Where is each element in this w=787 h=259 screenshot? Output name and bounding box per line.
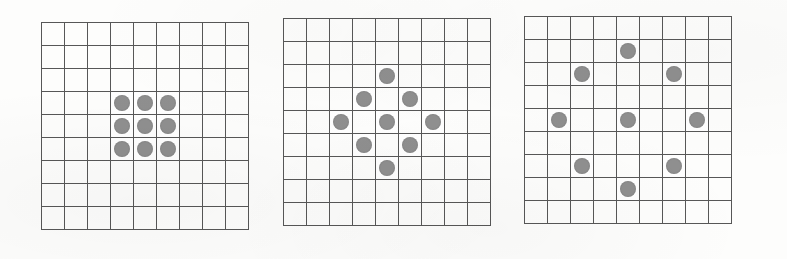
lattice-cell-empty[interactable] (525, 17, 548, 40)
lattice-cell-empty[interactable] (709, 178, 732, 201)
lattice-cell-empty[interactable] (157, 184, 180, 207)
lattice-cell-empty[interactable] (640, 132, 663, 155)
lattice-cell-empty[interactable] (180, 184, 203, 207)
lattice-cell-empty[interactable] (353, 180, 376, 203)
lattice-cell-empty[interactable] (330, 134, 353, 157)
lattice-cell-empty[interactable] (571, 109, 594, 132)
lattice-cell-empty[interactable] (180, 161, 203, 184)
lattice-cell-empty[interactable] (709, 109, 732, 132)
lattice-cell-empty[interactable] (709, 132, 732, 155)
lattice-cell-empty[interactable] (468, 180, 491, 203)
lattice-cell-empty[interactable] (422, 65, 445, 88)
lattice-cell-empty[interactable] (422, 42, 445, 65)
lattice-cell-empty[interactable] (640, 178, 663, 201)
lattice-cell-empty[interactable] (594, 109, 617, 132)
lattice-cell-empty[interactable] (663, 86, 686, 109)
lattice-cell-empty[interactable] (180, 92, 203, 115)
lattice-cell-empty[interactable] (42, 207, 65, 230)
lattice-cell-empty[interactable] (594, 86, 617, 109)
lattice-cell-empty[interactable] (686, 178, 709, 201)
lattice-cell-empty[interactable] (686, 132, 709, 155)
lattice-cell-empty[interactable] (640, 155, 663, 178)
lattice-cell-empty[interactable] (663, 178, 686, 201)
lattice-cell-empty[interactable] (548, 17, 571, 40)
lattice-cell-empty[interactable] (88, 92, 111, 115)
lattice-cell-empty[interactable] (468, 42, 491, 65)
lattice-cell-empty[interactable] (422, 19, 445, 42)
lattice-cell-empty[interactable] (571, 40, 594, 63)
lattice-cell-empty[interactable] (399, 111, 422, 134)
lattice-cell-empty[interactable] (203, 46, 226, 69)
lattice-cell-empty[interactable] (617, 201, 640, 224)
lattice-cell-empty[interactable] (353, 42, 376, 65)
lattice-cell-empty[interactable] (284, 42, 307, 65)
lattice-cell-empty[interactable] (226, 184, 249, 207)
lattice-cell-marked[interactable] (157, 92, 180, 115)
lattice-cell-empty[interactable] (525, 178, 548, 201)
lattice-cell-empty[interactable] (640, 17, 663, 40)
lattice-cell-empty[interactable] (42, 92, 65, 115)
lattice-cell-empty[interactable] (617, 63, 640, 86)
lattice-cell-empty[interactable] (226, 46, 249, 69)
lattice-cell-empty[interactable] (42, 69, 65, 92)
lattice-cell-empty[interactable] (65, 207, 88, 230)
lattice-cell-marked[interactable] (111, 92, 134, 115)
lattice-cell-empty[interactable] (42, 138, 65, 161)
lattice-cell-empty[interactable] (663, 109, 686, 132)
lattice-cell-marked[interactable] (617, 109, 640, 132)
lattice-cell-empty[interactable] (330, 157, 353, 180)
lattice-cell-empty[interactable] (353, 19, 376, 42)
lattice-cell-empty[interactable] (88, 23, 111, 46)
lattice-cell-empty[interactable] (65, 184, 88, 207)
lattice-cell-marked[interactable] (617, 178, 640, 201)
lattice-cell-empty[interactable] (284, 180, 307, 203)
lattice-cell-empty[interactable] (111, 207, 134, 230)
lattice-cell-empty[interactable] (203, 23, 226, 46)
lattice-cell-marked[interactable] (134, 115, 157, 138)
lattice-cell-marked[interactable] (353, 134, 376, 157)
lattice-cell-empty[interactable] (594, 17, 617, 40)
lattice-cell-marked[interactable] (134, 92, 157, 115)
lattice-cell-empty[interactable] (203, 138, 226, 161)
lattice-cell-empty[interactable] (468, 19, 491, 42)
lattice-cell-empty[interactable] (525, 63, 548, 86)
lattice-cell-empty[interactable] (111, 23, 134, 46)
lattice-cell-empty[interactable] (284, 19, 307, 42)
lattice-cell-marked[interactable] (376, 157, 399, 180)
lattice-cell-empty[interactable] (307, 111, 330, 134)
lattice-cell-empty[interactable] (65, 161, 88, 184)
lattice-cell-empty[interactable] (468, 134, 491, 157)
lattice-cell-empty[interactable] (180, 23, 203, 46)
lattice-cell-empty[interactable] (548, 63, 571, 86)
lattice-cell-empty[interactable] (284, 134, 307, 157)
lattice-cell-empty[interactable] (709, 155, 732, 178)
lattice-cell-empty[interactable] (157, 23, 180, 46)
lattice-cell-empty[interactable] (284, 111, 307, 134)
lattice-cell-empty[interactable] (65, 92, 88, 115)
lattice-cell-empty[interactable] (399, 157, 422, 180)
lattice-cell-empty[interactable] (525, 201, 548, 224)
lattice-cell-empty[interactable] (307, 157, 330, 180)
lattice-cell-empty[interactable] (709, 63, 732, 86)
lattice-cell-empty[interactable] (571, 201, 594, 224)
lattice-cell-empty[interactable] (445, 134, 468, 157)
lattice-cell-empty[interactable] (640, 86, 663, 109)
lattice-cell-marked[interactable] (617, 40, 640, 63)
lattice-cell-empty[interactable] (180, 69, 203, 92)
lattice-cell-empty[interactable] (226, 161, 249, 184)
lattice-cell-marked[interactable] (686, 109, 709, 132)
lattice-cell-marked[interactable] (353, 88, 376, 111)
lattice-cell-empty[interactable] (640, 40, 663, 63)
lattice-cell-empty[interactable] (88, 115, 111, 138)
lattice-cell-empty[interactable] (376, 203, 399, 226)
lattice-cell-empty[interactable] (111, 161, 134, 184)
lattice-cell-empty[interactable] (525, 155, 548, 178)
lattice-grid-3[interactable] (524, 16, 732, 224)
lattice-cell-marked[interactable] (111, 115, 134, 138)
lattice-cell-empty[interactable] (111, 69, 134, 92)
lattice-cell-marked[interactable] (663, 63, 686, 86)
lattice-cell-empty[interactable] (399, 180, 422, 203)
lattice-cell-empty[interactable] (525, 86, 548, 109)
lattice-cell-empty[interactable] (180, 138, 203, 161)
lattice-cell-empty[interactable] (399, 19, 422, 42)
